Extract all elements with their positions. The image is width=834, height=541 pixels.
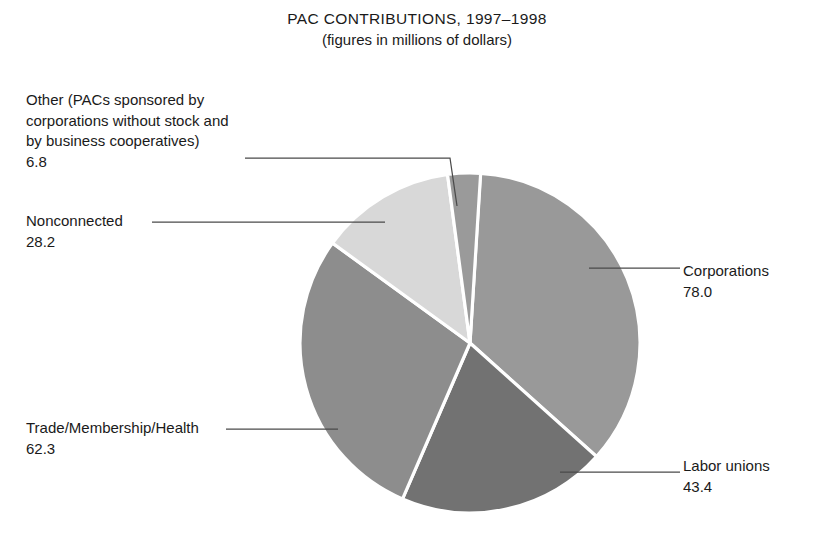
pie-slices (300, 173, 640, 513)
slice-label-other-name: Other (PACs sponsored by corporations wi… (26, 90, 258, 152)
slice-label-nonconnected: Nonconnected 28.2 (26, 211, 246, 252)
slice-label-labor: Labor unions 43.4 (683, 456, 833, 497)
slice-label-trade-value: 62.3 (26, 439, 286, 460)
slice-label-corporations-value: 78.0 (683, 282, 833, 303)
slice-label-corporations: Corporations 78.0 (683, 261, 833, 302)
slice-label-labor-name: Labor unions (683, 456, 833, 477)
slice-label-nonconnected-value: 28.2 (26, 232, 246, 253)
slice-label-other-value: 6.8 (26, 152, 258, 173)
slice-label-nonconnected-name: Nonconnected (26, 211, 246, 232)
slice-label-other: Other (PACs sponsored by corporations wi… (26, 90, 258, 172)
slice-label-trade-name: Trade/Membership/Health (26, 418, 286, 439)
pie-chart-figure: PAC CONTRIBUTIONS, 1997–1998 (figures in… (0, 0, 834, 541)
slice-label-trade: Trade/Membership/Health 62.3 (26, 418, 286, 459)
slice-label-labor-value: 43.4 (683, 477, 833, 498)
slice-label-corporations-name: Corporations (683, 261, 833, 282)
